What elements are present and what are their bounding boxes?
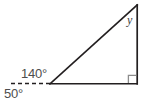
triangle-hypotenuse-side [50, 5, 137, 84]
exterior-angle-label: 140° [21, 67, 47, 80]
supplement-angle-label: 50° [4, 87, 23, 100]
right-angle-marker-icon [128, 75, 136, 83]
geometry-figure: 140° 50° y [0, 0, 148, 105]
apex-angle-label: y [127, 14, 132, 26]
